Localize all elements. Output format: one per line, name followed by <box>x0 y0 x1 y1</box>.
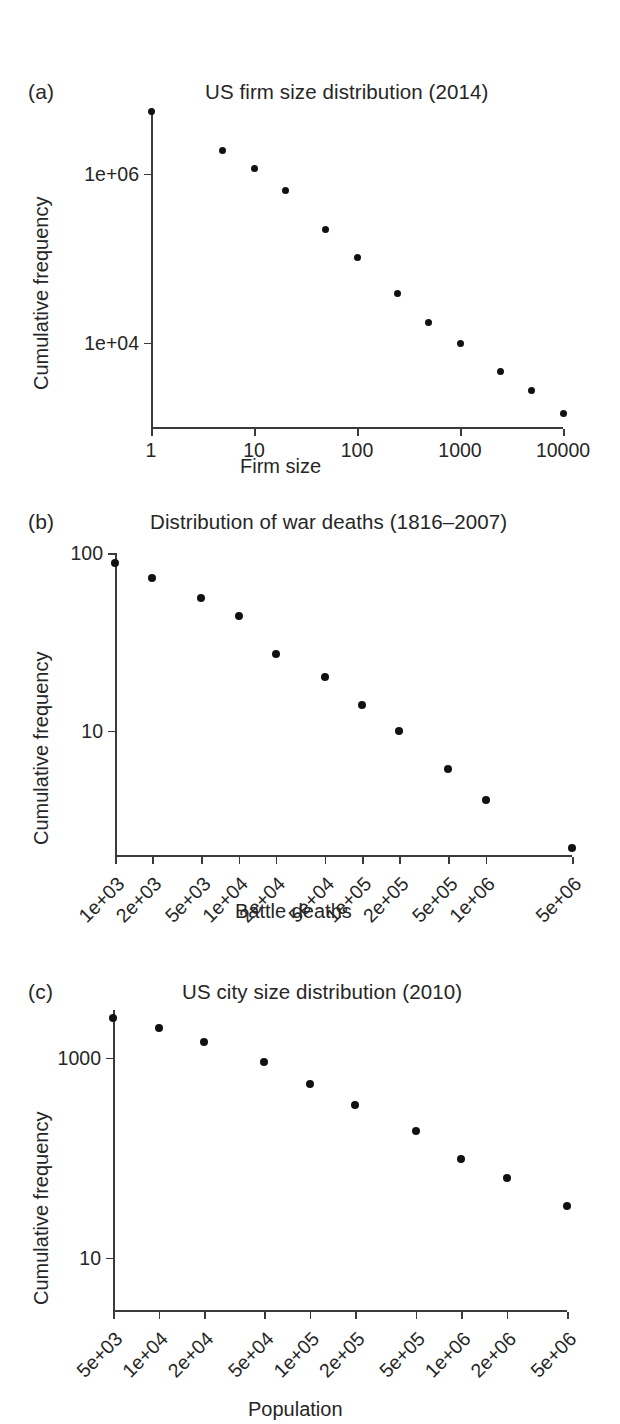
data-point <box>482 796 490 804</box>
data-point <box>444 765 452 773</box>
y-axis-line <box>115 553 117 855</box>
data-point <box>282 187 289 194</box>
x-tick-mark <box>563 429 565 436</box>
data-point <box>395 727 403 735</box>
y-tick-label: 1e+04 <box>84 331 139 354</box>
data-point <box>412 1127 420 1135</box>
panel-c-plot-area: 1010005e+031e+042e+045e+041e+052e+055e+0… <box>0 960 620 1410</box>
x-tick-mark <box>254 429 256 436</box>
data-point <box>322 226 329 233</box>
y-tick-mark <box>106 1258 113 1260</box>
data-point <box>306 1080 314 1088</box>
x-tick-mark <box>567 1312 569 1319</box>
panel-b-plot-area: 101001e+032e+035e+031e+042e+045e+041e+05… <box>0 495 620 960</box>
y-tick-mark <box>108 553 115 555</box>
data-point <box>200 1038 208 1046</box>
x-tick-label: 1000 <box>438 439 481 462</box>
x-tick-mark <box>416 1312 418 1319</box>
data-point <box>457 340 464 347</box>
data-point <box>528 387 535 394</box>
x-tick-mark <box>310 1312 312 1319</box>
y-tick-mark <box>144 174 151 176</box>
x-tick-mark <box>362 857 364 864</box>
x-axis-line <box>113 1310 567 1312</box>
panel-b: (b) Distribution of war deaths (1816–200… <box>0 495 620 960</box>
data-point <box>251 165 258 172</box>
data-point <box>358 701 366 709</box>
data-point <box>272 650 280 658</box>
data-point <box>568 844 576 852</box>
x-tick-mark <box>115 857 117 864</box>
data-point <box>197 594 205 602</box>
x-tick-mark <box>448 857 450 864</box>
x-tick-mark <box>461 1312 463 1319</box>
panel-a: (a) US firm size distribution (2014) Cum… <box>0 60 620 490</box>
panel-c: (c) US city size distribution (2010) Cum… <box>0 960 620 1410</box>
data-point <box>503 1174 511 1182</box>
data-point <box>560 410 567 417</box>
x-tick-mark <box>355 1312 357 1319</box>
x-tick-mark <box>276 857 278 864</box>
y-tick-label: 10 <box>79 1246 101 1269</box>
data-point <box>260 1058 268 1066</box>
y-tick-label: 1e+06 <box>84 162 139 185</box>
x-tick-mark <box>572 857 574 864</box>
y-tick-mark <box>108 731 115 733</box>
y-tick-label: 10 <box>81 719 103 742</box>
data-point <box>497 368 504 375</box>
data-point <box>321 673 329 681</box>
x-axis-line <box>115 855 572 857</box>
data-point <box>563 1202 571 1210</box>
x-tick-mark <box>113 1312 115 1319</box>
y-axis-line <box>151 108 153 427</box>
x-tick-mark <box>204 1312 206 1319</box>
data-point <box>457 1155 465 1163</box>
x-tick-mark <box>325 857 327 864</box>
data-point <box>354 254 361 261</box>
data-point <box>111 559 119 567</box>
y-tick-mark <box>106 1058 113 1060</box>
data-point <box>425 319 432 326</box>
x-tick-label: 100 <box>341 439 374 462</box>
y-axis-line <box>113 1010 115 1310</box>
panel-a-plot-area: 1e+041e+06110100100010000 <box>0 60 620 490</box>
x-tick-mark <box>159 1312 161 1319</box>
x-tick-mark <box>399 857 401 864</box>
y-tick-label: 100 <box>70 542 103 565</box>
x-tick-mark <box>507 1312 509 1319</box>
x-tick-mark <box>201 857 203 864</box>
x-tick-mark <box>239 857 241 864</box>
x-tick-mark <box>151 429 153 436</box>
data-point <box>235 612 243 620</box>
data-point <box>351 1101 359 1109</box>
x-tick-label: 10 <box>243 439 265 462</box>
x-tick-label: 10000 <box>536 439 590 462</box>
y-tick-label: 1000 <box>58 1046 101 1069</box>
x-tick-mark <box>264 1312 266 1319</box>
x-tick-mark <box>152 857 154 864</box>
data-point <box>155 1024 163 1032</box>
data-point <box>219 147 226 154</box>
data-point <box>109 1014 117 1022</box>
x-tick-mark <box>357 429 359 436</box>
x-tick-label: 1 <box>146 439 157 462</box>
y-tick-mark <box>144 343 151 345</box>
x-tick-mark <box>460 429 462 436</box>
data-point <box>148 108 155 115</box>
data-point <box>394 290 401 297</box>
data-point <box>148 574 156 582</box>
x-tick-mark <box>486 857 488 864</box>
